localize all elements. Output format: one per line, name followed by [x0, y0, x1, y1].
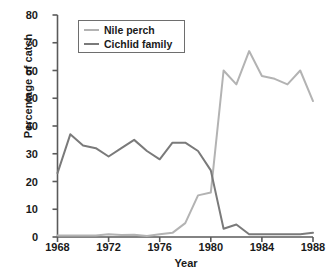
chart-legend: Nile perch Cichlid family — [78, 20, 185, 53]
y-tick-label: 10 — [16, 204, 38, 214]
legend-item-cichlid-family[interactable]: Cichlid family — [84, 37, 184, 51]
series-line-cichlid-family — [58, 134, 314, 234]
y-axis-title: Percentage of catch — [22, 6, 34, 166]
legend-swatch-cichlid-family — [84, 43, 99, 45]
line-chart: 01020304050607080 1968197219761980198419… — [0, 0, 329, 274]
legend-label-cichlid-family: Cichlid family — [104, 38, 172, 50]
legend-swatch-nile-perch — [84, 29, 99, 31]
y-tick-label: 20 — [16, 177, 38, 187]
y-tick-label: 0 — [16, 232, 38, 242]
legend-label-nile-perch: Nile perch — [104, 24, 155, 36]
data-series-layer — [58, 51, 314, 236]
x-axis-title: Year — [58, 257, 314, 269]
legend-item-nile-perch[interactable]: Nile perch — [84, 23, 184, 37]
